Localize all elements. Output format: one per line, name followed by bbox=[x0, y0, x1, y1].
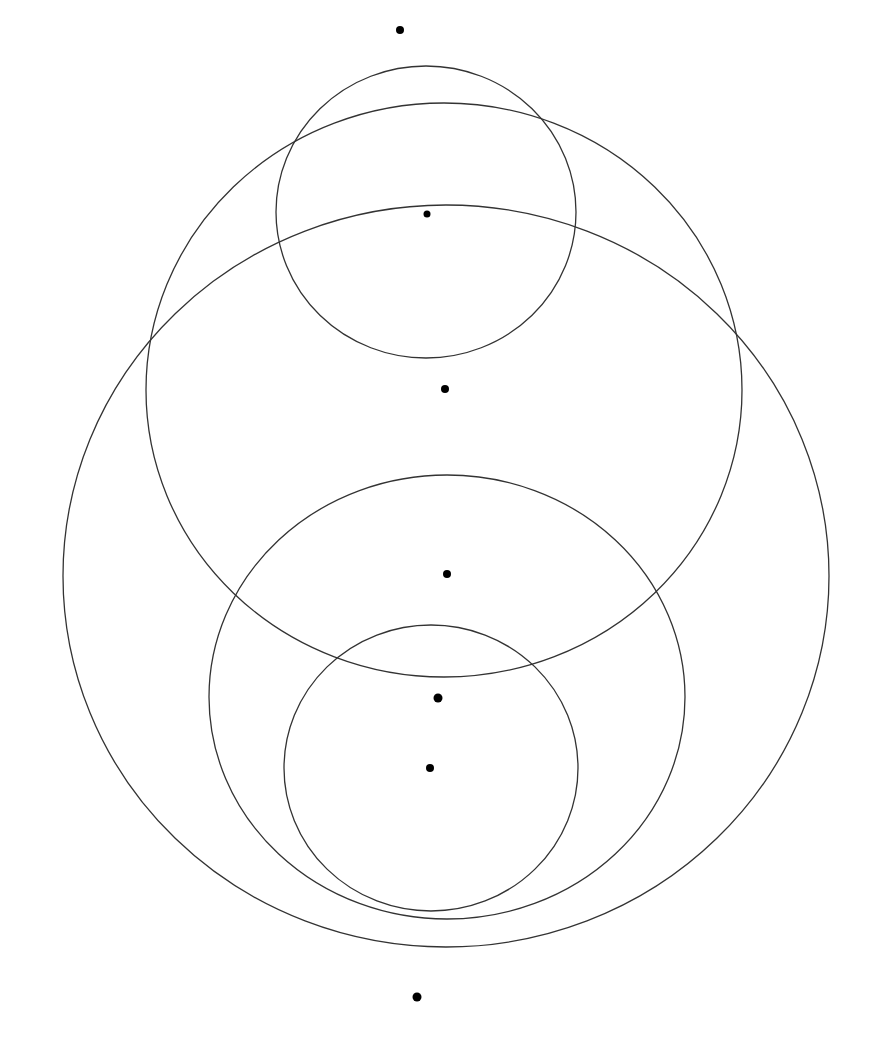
circle-group bbox=[63, 66, 829, 947]
point-3 bbox=[441, 385, 449, 393]
point-5 bbox=[434, 694, 443, 703]
circles-diagram bbox=[0, 0, 877, 1061]
point-6 bbox=[426, 764, 434, 772]
point-4 bbox=[443, 570, 451, 578]
point-group bbox=[396, 26, 451, 1002]
point-2 bbox=[424, 211, 431, 218]
circle-lower-medium bbox=[209, 475, 685, 919]
point-7 bbox=[413, 993, 422, 1002]
point-1 bbox=[396, 26, 404, 34]
